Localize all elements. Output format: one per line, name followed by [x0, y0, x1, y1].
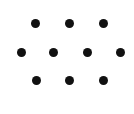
dot-marker — [99, 76, 108, 85]
dot-marker — [31, 19, 40, 28]
dot-pattern-canvas — [0, 0, 134, 114]
dot-marker — [99, 19, 108, 28]
dot-marker — [65, 19, 74, 28]
dot-marker — [17, 48, 26, 57]
dot-marker — [83, 48, 92, 57]
dot-marker — [116, 48, 125, 57]
dot-marker — [32, 76, 41, 85]
dot-marker — [65, 76, 74, 85]
dots-layer — [0, 0, 134, 114]
dot-marker — [49, 48, 58, 57]
